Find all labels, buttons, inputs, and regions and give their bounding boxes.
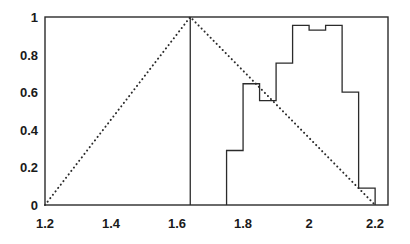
y-tick-label-0.8: 0.8 xyxy=(20,48,38,63)
y-tick-label-0.4: 0.4 xyxy=(20,123,39,138)
x-tick-label-1.6: 1.6 xyxy=(168,216,186,231)
x-tick-label-2.2: 2.2 xyxy=(366,216,384,231)
y-tick-label-0: 0 xyxy=(31,198,38,213)
y-tick-label-0.6: 0.6 xyxy=(20,85,38,100)
x-tick-label-1.4: 1.4 xyxy=(102,216,121,231)
chart-figure: 1 0.8 0.6 0.4 0.2 0 1.2 1.4 1.6 1.8 2 2.… xyxy=(0,0,410,244)
x-tick-label-1.8: 1.8 xyxy=(234,216,252,231)
y-tick-label-1: 1 xyxy=(31,10,38,25)
plot-frame xyxy=(45,17,388,205)
triangular-membership-line xyxy=(45,17,375,205)
empirical-histogram-step xyxy=(227,25,376,205)
x-tick-label-1.2: 1.2 xyxy=(36,216,54,231)
y-tick-label-0.2: 0.2 xyxy=(20,160,38,175)
x-tick-label-2: 2 xyxy=(305,216,312,231)
series-group xyxy=(45,17,375,205)
chart-canvas: 1 0.8 0.6 0.4 0.2 0 1.2 1.4 1.6 1.8 2 2.… xyxy=(0,0,410,244)
